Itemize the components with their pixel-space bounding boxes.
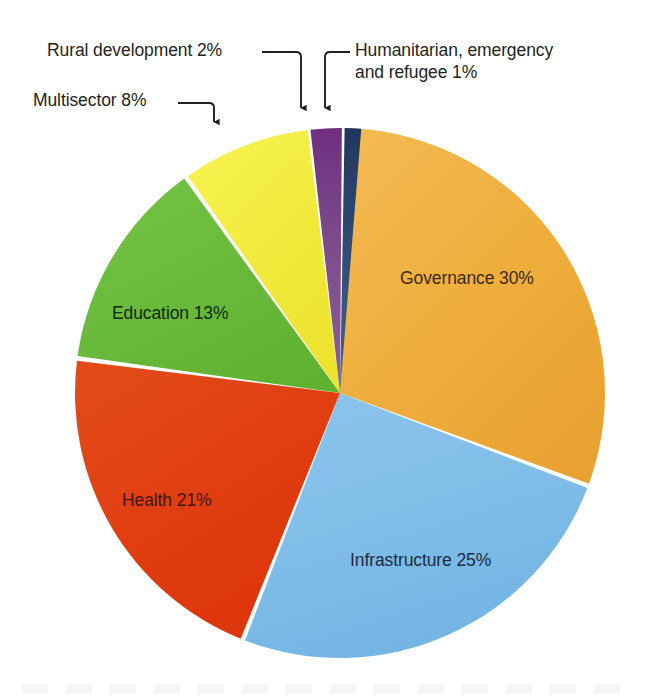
slice-label-infrastructure: Infrastructure 25%	[350, 550, 491, 571]
slice-label-health: Health 21%	[122, 490, 211, 511]
callout-label-rural-development: Rural development 2%	[47, 39, 222, 61]
leader-line-multisector	[178, 103, 214, 122]
callout-label-humanitarian-line2: and refugee 1%	[355, 62, 477, 82]
pie-chart-figure: Rural development 2% Multisector 8% Huma…	[0, 0, 649, 700]
callout-label-humanitarian-line1: Humanitarian, emergency	[355, 40, 553, 60]
leader-line-rural-development	[262, 52, 301, 108]
slice-label-education: Education 13%	[112, 303, 228, 324]
leader-line-humanitarian	[325, 52, 350, 108]
callout-label-multisector: Multisector 8%	[33, 89, 146, 111]
callout-label-humanitarian: Humanitarian, emergency and refugee 1%	[355, 39, 625, 84]
slice-label-governance: Governance 30%	[400, 268, 534, 289]
